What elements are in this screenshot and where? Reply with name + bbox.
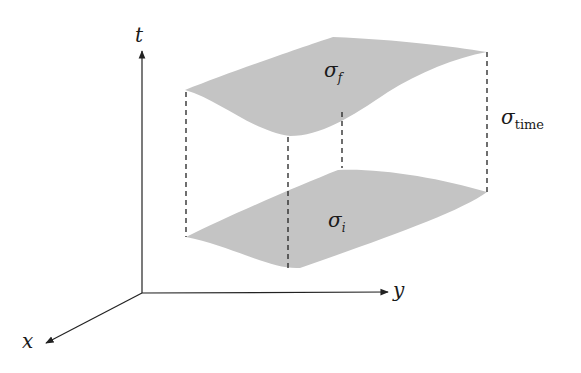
x-axis (46, 293, 142, 343)
y-axis (142, 292, 388, 293)
x-axis-label: x (22, 331, 33, 351)
final-surface (185, 37, 487, 136)
diagram-graphic (0, 0, 581, 373)
spacetime-diagram: t y x σf σi σtime (0, 0, 581, 373)
y-axis-label: y (393, 280, 404, 300)
sigma-i-label: σi (328, 210, 346, 230)
sigma-time-label: σtime (501, 107, 544, 127)
t-axis-label: t (135, 25, 143, 45)
sigma-f-label: σf (324, 60, 342, 80)
